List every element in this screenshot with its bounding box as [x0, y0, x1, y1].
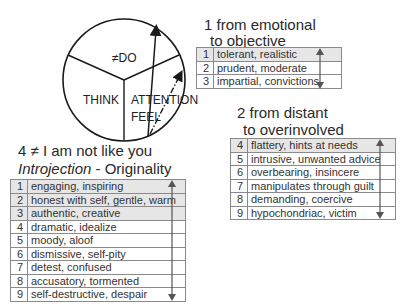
row-num: 3 [197, 75, 214, 89]
table-row: 4dramatic, idealize [11, 220, 186, 234]
row-text: dismissive, self-pity [28, 247, 186, 261]
row-num: 4 [231, 139, 248, 153]
table-row: 3authentic, creative [11, 207, 186, 221]
row-num: 8 [231, 193, 248, 207]
row-num: 9 [11, 288, 28, 302]
row-num: 9 [231, 206, 248, 220]
table-row: 5moody, aloof [11, 234, 186, 248]
row-num: 2 [11, 193, 28, 207]
table-row: 6overbearing, insincere [231, 166, 396, 180]
table-row: 9self-destructive, despair [11, 288, 186, 302]
row-text: dramatic, idealize [28, 220, 186, 234]
row-text: honest with self, gentle, warm [28, 193, 186, 207]
table-row: 5intrusive, unwanted advice [231, 152, 396, 166]
row-num: 4 [11, 220, 28, 234]
double-arrow-icon [166, 179, 178, 302]
table-row: 7detest, confused [11, 261, 186, 275]
row-text: detest, confused [28, 261, 186, 275]
double-arrow-icon [374, 138, 386, 220]
row-num: 2 [197, 61, 214, 75]
row-num: 7 [231, 179, 248, 193]
row-text: moody, aloof [28, 234, 186, 248]
label-think: THINK [83, 93, 119, 107]
row-num: 6 [231, 166, 248, 180]
table-row: 8accusatory, tormented [11, 274, 186, 288]
row-num: 7 [11, 261, 28, 275]
originality-label: - Originality [91, 160, 171, 177]
row-text: accusatory, tormented [28, 274, 186, 288]
double-arrow-icon [314, 47, 326, 90]
row-num: 3 [11, 207, 28, 221]
label-do: ≠DO [112, 51, 137, 65]
row-text: engaging, inspiring [28, 180, 186, 194]
row-text: self-destructive, despair [28, 288, 186, 302]
table-row: 4flattery, hints at needs [231, 139, 396, 153]
row-num: 5 [11, 234, 28, 248]
row-num: 5 [231, 152, 248, 166]
group4-title-line1: 4 ≠ I am not like you [18, 142, 152, 160]
group2-table: 4flattery, hints at needs 5intrusive, un… [230, 138, 396, 220]
introjection-label: Introjection [18, 160, 91, 177]
table-row: 8demanding, coercive [231, 193, 396, 207]
table-row: 2honest with self, gentle, warm [11, 193, 186, 207]
row-num: 6 [11, 247, 28, 261]
row-num: 1 [11, 180, 28, 194]
table-row: 6dismissive, self-pity [11, 247, 186, 261]
table-row: 9hypochondriac, victim [231, 206, 396, 220]
table-row: 1engaging, inspiring [11, 180, 186, 194]
row-text: authentic, creative [28, 207, 186, 221]
group4-table: 1engaging, inspiring 2honest with self, … [10, 179, 186, 302]
table-row: 7manipulates through guilt [231, 179, 396, 193]
row-num: 8 [11, 274, 28, 288]
group2-title-line2: to overinvolved [243, 121, 344, 139]
label-feel: FEEL [131, 110, 161, 124]
label-attention: ATTENTION [131, 93, 198, 107]
group2-title-line1: 2 from distant [237, 104, 328, 122]
group4-title-line2: Introjection - Originality [18, 160, 171, 178]
row-num: 1 [197, 48, 214, 62]
